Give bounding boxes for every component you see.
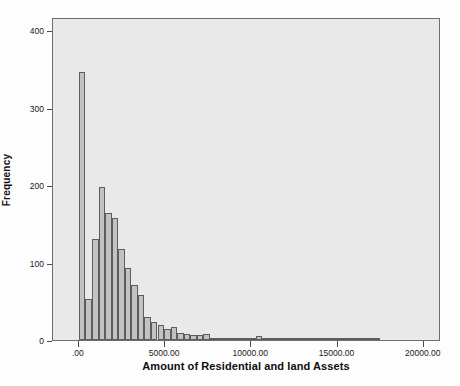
- histogram-bar: [223, 338, 230, 340]
- x-tick-label: 20000.00: [405, 348, 440, 358]
- histogram-bar: [118, 249, 125, 340]
- y-tick-label: 300: [30, 104, 44, 114]
- y-tick-label: 400: [30, 26, 44, 36]
- histogram-bar: [138, 295, 145, 340]
- x-axis-title: Amount of Residential and land Assets: [142, 360, 349, 372]
- x-tick-mark: [250, 341, 251, 347]
- histogram-chart: Frequency 0100200300400 .005000.0010000.…: [0, 0, 460, 386]
- y-axis-title: Frequency: [1, 154, 12, 206]
- histogram-bar: [374, 338, 381, 340]
- x-tick-mark: [164, 341, 165, 347]
- x-tick-mark: [337, 341, 338, 347]
- x-tick-mark: [78, 341, 79, 347]
- histogram-bar: [275, 338, 282, 340]
- x-tick-label: 15000.00: [319, 348, 354, 358]
- histogram-bar: [256, 336, 263, 340]
- histogram-bar: [367, 338, 374, 340]
- histogram-bar: [321, 338, 328, 340]
- x-tick-mark: [423, 341, 424, 347]
- y-tick-label: 200: [30, 181, 44, 191]
- x-tick-label: 5000.00: [149, 348, 180, 358]
- y-tick-label: 100: [30, 259, 44, 269]
- histogram-bar: [151, 322, 158, 340]
- histogram-bar: [289, 338, 296, 340]
- histogram-bar: [236, 338, 243, 340]
- plot-area: [52, 18, 440, 341]
- histogram-bars: [53, 19, 439, 340]
- histogram-bar: [164, 329, 171, 340]
- x-tick-label: 10000.00: [233, 348, 268, 358]
- histogram-bar: [99, 187, 106, 340]
- histogram-bar: [210, 338, 217, 340]
- histogram-bar: [302, 338, 309, 340]
- y-axis: Frequency 0100200300400: [0, 0, 52, 386]
- x-tick-label: .00: [72, 348, 84, 358]
- histogram-bar: [341, 338, 348, 340]
- histogram-bar: [85, 299, 92, 340]
- histogram-bar: [361, 338, 368, 340]
- histogram-bar: [184, 334, 191, 340]
